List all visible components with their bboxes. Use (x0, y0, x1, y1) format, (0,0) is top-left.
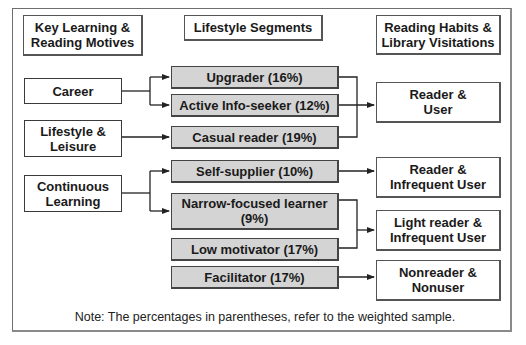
motive-label: Career (52, 84, 93, 99)
motive-continuous-learning: Continuous Learning (24, 175, 122, 212)
segment-label: Upgrader (16%) (206, 70, 302, 85)
segment-label: Facilitator (17%) (204, 270, 304, 285)
header-label: Lifestyle Segments (194, 20, 313, 35)
outcome-reader-infrequent-user: Reader & Infrequent User (376, 157, 501, 198)
header-reading-habits: Reading Habits & Library Visitations (376, 15, 501, 55)
outcome-nonreader-nonuser: Nonreader & Nonuser (376, 260, 501, 301)
segment-upgrader: Upgrader (16%) (171, 66, 339, 89)
outcome-reader-user: Reader & User (376, 82, 501, 123)
outcome-label: Reader & User (409, 87, 466, 117)
segment-label: Casual reader (19%) (192, 130, 316, 145)
motive-lifestyle-leisure: Lifestyle & Leisure (24, 120, 122, 157)
header-label: Key Learning & Reading Motives (31, 20, 134, 50)
segment-low-motivator: Low motivator (17%) (171, 238, 339, 261)
header-lifestyle-segments: Lifestyle Segments (184, 15, 323, 41)
segment-label: Low motivator (17%) (191, 242, 318, 257)
motive-career: Career (24, 78, 122, 104)
segment-narrow-focused-learner: Narrow-focused learner (9%) (171, 193, 339, 230)
outcome-light-reader-infrequent-user: Light reader & Infrequent User (376, 210, 501, 251)
segment-self-supplier: Self-supplier (10%) (171, 160, 339, 183)
header-key-learning-motives: Key Learning & Reading Motives (23, 15, 143, 56)
segment-label: Active Info-seeker (12%) (179, 98, 329, 113)
outcome-label: Nonreader & Nonuser (399, 265, 477, 295)
outcome-label: Reader & Infrequent User (390, 162, 486, 192)
motive-label: Lifestyle & Leisure (40, 124, 106, 154)
segment-label: Self-supplier (10%) (196, 164, 313, 179)
segment-label: Narrow-focused learner (9%) (182, 196, 328, 226)
motive-label: Continuous Learning (37, 179, 109, 209)
segment-casual-reader: Casual reader (19%) (171, 126, 339, 149)
segment-active-info-seeker: Active Info-seeker (12%) (171, 94, 339, 117)
header-label: Reading Habits & Library Visitations (381, 20, 494, 50)
segment-facilitator: Facilitator (17%) (171, 266, 339, 289)
outcome-label: Light reader & Infrequent User (390, 215, 486, 245)
footnote: Note: The percentages in parentheses, re… (30, 310, 500, 324)
